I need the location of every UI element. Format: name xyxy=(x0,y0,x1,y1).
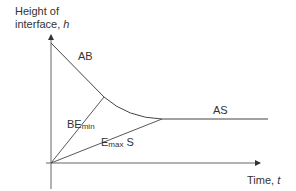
label-be-min: BEmin xyxy=(67,118,95,133)
interface-curve xyxy=(51,43,162,119)
x-axis-label-text: Time, xyxy=(247,174,277,186)
x-axis-label: Time, t xyxy=(247,174,280,187)
be-min-main: BE xyxy=(67,118,82,130)
emax-suffix: S xyxy=(123,136,133,148)
emax-subscript: max xyxy=(108,140,123,149)
y-axis-label: Height of interface, h xyxy=(15,5,69,31)
label-as: AS xyxy=(213,104,228,117)
x-axis-variable: t xyxy=(277,174,280,186)
label-ab: AB xyxy=(78,50,93,63)
y-axis-label-line1: Height of xyxy=(15,5,69,18)
y-axis-label-line2: interface, h xyxy=(15,18,69,31)
be-min-subscript: min xyxy=(82,122,95,131)
label-emax-s: Emax S xyxy=(101,136,134,151)
y-axis-variable: h xyxy=(63,18,69,30)
y-axis-label-text: interface, xyxy=(15,18,63,30)
